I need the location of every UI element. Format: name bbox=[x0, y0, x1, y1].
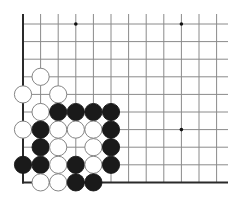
white-stone bbox=[85, 121, 102, 138]
black-stone bbox=[102, 156, 119, 173]
black-stone bbox=[102, 103, 119, 120]
black-stone bbox=[67, 156, 84, 173]
black-stone bbox=[102, 121, 119, 138]
white-stone bbox=[85, 139, 102, 156]
go-board bbox=[0, 0, 244, 203]
black-stone bbox=[67, 103, 84, 120]
white-stone bbox=[14, 121, 31, 138]
star-point bbox=[180, 22, 184, 26]
black-stone bbox=[50, 103, 67, 120]
black-stone bbox=[102, 139, 119, 156]
black-stone bbox=[32, 156, 49, 173]
white-stone bbox=[67, 121, 84, 138]
white-stone bbox=[50, 174, 67, 191]
black-stone bbox=[32, 139, 49, 156]
white-stone bbox=[50, 156, 67, 173]
black-stone bbox=[14, 156, 31, 173]
white-stone bbox=[32, 103, 49, 120]
black-stone bbox=[85, 174, 102, 191]
black-stone bbox=[32, 121, 49, 138]
black-stone bbox=[67, 174, 84, 191]
white-stone bbox=[50, 121, 67, 138]
white-stone bbox=[32, 68, 49, 85]
white-stone bbox=[50, 86, 67, 103]
black-stone bbox=[85, 103, 102, 120]
white-stone bbox=[32, 174, 49, 191]
white-stone bbox=[14, 86, 31, 103]
star-point bbox=[180, 128, 184, 132]
star-point bbox=[74, 22, 78, 26]
white-stone bbox=[50, 139, 67, 156]
white-stone bbox=[85, 156, 102, 173]
stones-layer bbox=[14, 68, 119, 191]
